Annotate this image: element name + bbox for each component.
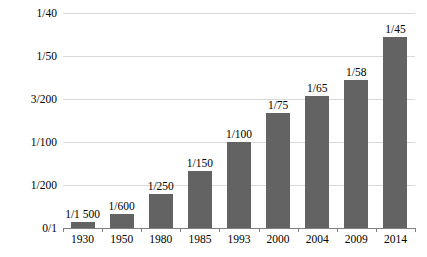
bar [305,96,329,228]
bar [227,142,251,228]
bar [344,80,368,228]
x-axis-tick [376,228,377,232]
x-axis-tick [259,228,260,232]
x-axis-tick [219,228,220,232]
y-axis-label-1-200: 1/200 [0,179,57,191]
y-tick-text: 1/200 [31,179,57,191]
y-axis-label-1-50: 1/50 [0,50,57,62]
x-axis-tick [415,228,416,232]
y-axis-label-3-200: 3/200 [0,93,57,105]
bar [188,171,212,228]
y-tick-text: 1/100 [31,136,57,148]
x-axis-tick [337,228,338,232]
x-axis-tick [298,228,299,232]
bar [110,214,134,228]
x-axis-tick [102,228,103,232]
y-axis-label-1-100: 1/100 [0,136,57,148]
x-axis-tick-label: 2014 [365,233,425,246]
y-tick-text: 1/50 [37,50,57,62]
bar [383,37,407,228]
bar [266,113,290,228]
x-axis-line [63,228,415,229]
x-axis-tick [141,228,142,232]
y-axis-label-1-40: 1/40 [0,7,57,19]
y-axis-label-0-1: 0/1 [0,222,57,234]
gridline-1-50 [63,56,415,57]
x-axis-tick [180,228,181,232]
y-tick-text: 1/40 [37,7,57,19]
bar-value-label: 1/45 [355,23,427,35]
y-tick-text: 3/200 [31,93,57,105]
bar [149,194,173,228]
bar-chart: 1/40 1/50 3/200 1/100 1/200 0/1 1/1 5001… [0,0,427,257]
x-axis-tick [63,228,64,232]
gridline-1-40 [63,13,415,14]
